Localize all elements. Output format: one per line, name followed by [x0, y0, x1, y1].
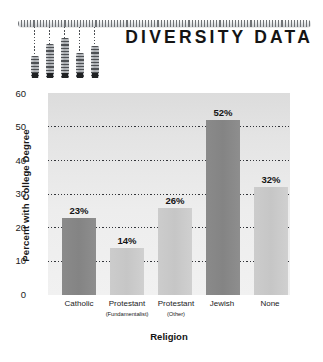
bar-protestant-other[interactable]: [158, 208, 192, 295]
ornament-bar-body-3: [61, 38, 69, 78]
bar-slot-protestant-fundamentalist: 14%: [110, 93, 144, 295]
ornament-bar-cap-3: [62, 73, 68, 78]
ornament-bar-cap-5: [92, 73, 98, 78]
ornament-drop-line-3: [64, 27, 65, 38]
ornament-drop-line-5: [94, 27, 95, 46]
ornament-rail: [18, 20, 311, 27]
y-tick-label-30: 30: [0, 188, 26, 199]
x-tick-label-none: None: [242, 299, 298, 309]
bar-value-protestant-fundamentalist: 14%: [117, 235, 136, 246]
y-tick-label-20: 20: [0, 222, 26, 233]
bar-protestant-fundamentalist[interactable]: [110, 248, 144, 295]
x-axis-title: Religion: [48, 331, 290, 342]
plot-area: 23% 14% 26% 52% 32%: [48, 93, 290, 295]
bar-value-catholic: 23%: [69, 205, 88, 216]
x-tick-text-jewish: Jewish: [210, 299, 234, 308]
x-tick-text-protestant-fundamentalist: Protestant: [109, 299, 145, 308]
bar-catholic[interactable]: [62, 218, 96, 295]
ornament-bar-1: [31, 27, 39, 75]
ornament-bar-3: [61, 27, 69, 75]
header-banner: DIVERSITY DATA: [0, 0, 323, 80]
bar-slot-none: 32%: [254, 93, 288, 295]
x-tick-sub-protestant-other: (Other): [144, 309, 208, 319]
y-tick-label-10: 10: [0, 255, 26, 266]
y-tick-label-50: 50: [0, 121, 26, 132]
ornament-bar-cap-4: [77, 73, 83, 78]
bar-jewish[interactable]: [206, 120, 240, 295]
ornament-bar-4: [76, 27, 84, 75]
bar-chart: Percent with College Degree 60 50 40 30 …: [0, 80, 323, 362]
y-tick-label-60: 60: [0, 88, 26, 99]
y-tick-label-40: 40: [0, 155, 26, 166]
ornament-bar-2: [46, 27, 54, 75]
x-tick-text-catholic: Catholic: [65, 299, 94, 308]
bar-slot-catholic: 23%: [62, 93, 96, 295]
bar-slot-jewish: 52%: [206, 93, 240, 295]
bar-value-jewish: 52%: [213, 107, 232, 118]
page-title: DIVERSITY DATA: [125, 27, 313, 48]
ornament-drop-line-1: [34, 27, 35, 56]
bar-series: 23% 14% 26% 52% 32%: [48, 93, 290, 295]
bar-value-none: 32%: [261, 174, 280, 185]
bar-value-protestant-other: 26%: [165, 195, 184, 206]
bar-none[interactable]: [254, 187, 288, 295]
bar-slot-protestant-other: 26%: [158, 93, 192, 295]
ornament-drop-line-2: [49, 27, 50, 44]
x-tick-text-none: None: [260, 299, 279, 308]
ornament-bar-5: [91, 27, 99, 75]
ornament-bar-cap-1: [32, 73, 38, 78]
x-tick-text-protestant-other: Protestant: [158, 299, 194, 308]
ornament-drop-line-4: [79, 27, 80, 53]
y-tick-label-0: 0: [0, 289, 26, 300]
ornament-bar-cap-2: [47, 73, 53, 78]
